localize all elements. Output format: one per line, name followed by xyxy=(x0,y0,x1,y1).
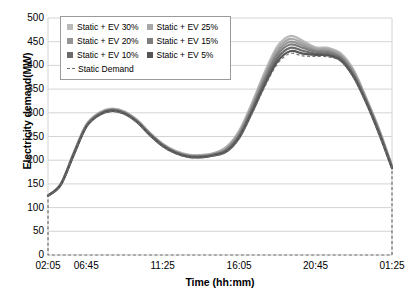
x-tick-label: 20:45 xyxy=(303,261,328,271)
legend-entry: Static + EV 10% xyxy=(67,51,147,60)
dashed-line-icon xyxy=(67,66,75,72)
legend-label: Static + EV 20% xyxy=(77,37,139,46)
legend-row: Static Demand xyxy=(67,62,226,76)
legend-entry: Static + EV 5% xyxy=(147,51,227,60)
chart-legend: Static + EV 30%Static + EV 25%Static + E… xyxy=(60,16,231,80)
legend-entry: Static + EV 30% xyxy=(67,23,147,32)
legend-swatch-icon xyxy=(67,24,73,30)
legend-swatch-icon xyxy=(147,52,153,58)
legend-label: Static Demand xyxy=(78,65,134,74)
legend-entry: Static Demand xyxy=(67,65,147,74)
legend-entry: Static + EV 15% xyxy=(147,37,227,46)
legend-label: Static + EV 5% xyxy=(157,51,214,60)
x-axis-title: Time (hh:mm) xyxy=(48,276,392,288)
x-tick-label: 16:05 xyxy=(227,261,252,271)
electricity-demand-chart: Electricity demand(MW) 05010015020025030… xyxy=(0,0,408,300)
legend-label: Static + EV 30% xyxy=(77,23,139,32)
legend-label: Static + EV 25% xyxy=(157,23,219,32)
legend-entry: Static + EV 20% xyxy=(67,37,147,46)
legend-row: Static + EV 10%Static + EV 5% xyxy=(67,48,226,62)
legend-swatch-icon xyxy=(147,38,153,44)
x-tick-label: 01:25 xyxy=(379,261,404,271)
legend-swatch-icon xyxy=(147,24,153,30)
legend-row: Static + EV 30%Static + EV 25% xyxy=(67,20,226,34)
legend-swatch-icon xyxy=(67,52,73,58)
legend-row: Static + EV 20%Static + EV 15% xyxy=(67,34,226,48)
legend-entry: Static + EV 25% xyxy=(147,23,227,32)
x-tick-label: 11:25 xyxy=(151,261,175,271)
legend-label: Static + EV 10% xyxy=(77,51,139,60)
legend-swatch-icon xyxy=(67,38,73,44)
x-tick-label: 06:45 xyxy=(74,261,99,271)
legend-label: Static + EV 15% xyxy=(157,37,219,46)
x-tick-label: 02:05 xyxy=(35,261,60,271)
